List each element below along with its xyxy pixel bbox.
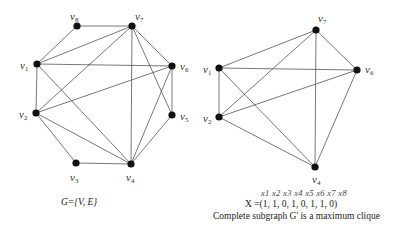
left-label-v3: v3 (70, 171, 79, 185)
left-edge-v2-v4 (36, 113, 131, 164)
right-edge-v4-v6 (315, 70, 357, 167)
left-node-v7 (128, 22, 135, 29)
left-edge-v5-v4 (131, 115, 172, 164)
right-label-v1: v1 (203, 63, 212, 77)
right-edge-v2-v4 (219, 117, 315, 167)
left-node-v6 (168, 62, 175, 69)
left-edge-v7-v1 (37, 26, 132, 64)
left-label-v1: v1 (20, 59, 29, 73)
left-label-v4: v4 (126, 171, 135, 185)
left-node-v3 (72, 159, 79, 166)
right-edge-v1-v7 (219, 30, 316, 68)
left-edge-v3-v4 (76, 163, 131, 164)
clique-diagram: v1v2v3v4v5v6v7v8 v1v2v4v6v7 (0, 0, 397, 236)
left-label-v7: v7 (135, 10, 144, 24)
left-node-v5 (168, 111, 175, 118)
left-graph-edges (36, 26, 172, 164)
clique-description: Complete subgraph G' is a maximum clique (213, 211, 380, 221)
right-edge-v1-v6 (219, 68, 357, 70)
right-label-v6: v6 (365, 63, 374, 77)
left-label-v2: v2 (19, 108, 28, 122)
left-edge-v7-v6 (132, 26, 172, 66)
left-node-v1 (33, 60, 40, 67)
left-edge-v2-v3 (36, 113, 76, 163)
right-edge-v2-v6 (219, 70, 357, 117)
right-edge-v1-v4 (219, 68, 315, 167)
right-graph-edges (219, 30, 357, 167)
left-edge-v1-v4 (37, 64, 131, 164)
left-label-v8: v8 (70, 10, 79, 24)
left-edge-v1-v6 (37, 64, 172, 66)
x-solution-vector: X =(1, 1, 0, 1, 0, 1, 1, 0) (245, 199, 337, 209)
right-node-v2 (215, 113, 222, 120)
left-edge-v6-v2 (36, 66, 172, 113)
left-edge-v6-v4 (131, 66, 172, 164)
left-node-v2 (32, 109, 39, 116)
x-variable-header: x1 x2 x3 x4 x5 x6 x7 x8 (261, 188, 347, 198)
left-graph-nodes: v1v2v3v4v5v6v7v8 (19, 10, 189, 185)
left-edge-v8-v1 (37, 26, 77, 64)
left-edge-v7-v4 (131, 26, 132, 164)
left-node-v4 (127, 160, 134, 167)
left-label-v5: v5 (180, 110, 189, 124)
right-edge-v4-v7 (315, 30, 316, 167)
right-node-v1 (215, 64, 222, 71)
graph-g-caption: G={V, E} (61, 197, 97, 207)
right-label-v2: v2 (203, 112, 212, 126)
right-node-v7 (312, 26, 319, 33)
left-edge-v7-v5 (132, 26, 172, 115)
right-edge-v6-v7 (316, 30, 357, 70)
left-label-v6: v6 (180, 60, 189, 74)
right-label-v4: v4 (312, 173, 321, 187)
right-edge-v2-v7 (219, 30, 316, 117)
right-node-v4 (311, 163, 318, 170)
left-edge-v1-v2 (36, 64, 37, 113)
right-node-v6 (353, 66, 360, 73)
right-graph-nodes: v1v2v4v6v7 (203, 12, 374, 187)
left-edge-v7-v2 (36, 26, 132, 113)
right-label-v7: v7 (318, 12, 327, 26)
